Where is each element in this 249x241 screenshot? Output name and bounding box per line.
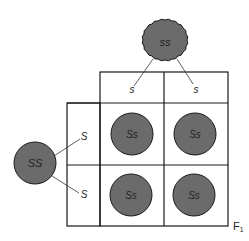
svg-text:Ss: Ss <box>125 190 137 201</box>
svg-text:Ss: Ss <box>188 190 200 201</box>
offspring-cell: Ss <box>111 113 153 155</box>
offspring-cell: Ss <box>174 113 216 155</box>
left-gamete-1: S <box>81 131 88 142</box>
parent-top-genotype: ss <box>160 36 172 48</box>
generation-label: F1 <box>233 220 244 233</box>
left-gamete-2: S <box>81 189 88 200</box>
offspring-cell: Ss <box>173 174 215 216</box>
parent-left-seed: SS <box>14 142 56 184</box>
punnett-square-diagram: ss SS s s S S Ss Ss Ss Ss F1 <box>0 0 249 241</box>
parent-top-seed: ss <box>142 19 188 61</box>
parent-left-genotype: SS <box>28 157 43 169</box>
svg-text:Ss: Ss <box>126 129 138 140</box>
svg-text:Ss: Ss <box>189 129 201 140</box>
offspring-cell: Ss <box>110 174 152 216</box>
top-gamete-1: s <box>130 84 135 95</box>
top-gamete-2: s <box>194 84 199 95</box>
